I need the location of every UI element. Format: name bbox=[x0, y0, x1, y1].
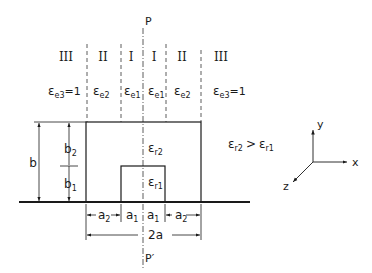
region-label: I bbox=[129, 50, 134, 64]
y-axis-label: y bbox=[317, 118, 324, 131]
permittivity-label: εe2 bbox=[174, 84, 191, 100]
coordinate-axes bbox=[293, 130, 347, 182]
permittivity-label: εe3=1 bbox=[213, 84, 246, 100]
region-label: II bbox=[98, 50, 108, 64]
dielectric-waveguide-diagram: P P′ III II I I II III εe3=1 εe2 εe1 εe1… bbox=[0, 0, 372, 273]
symmetry-label-top: P bbox=[145, 15, 152, 28]
symmetry-label-bottom: P′ bbox=[145, 252, 155, 265]
region-label: III bbox=[214, 50, 228, 64]
outer-dielectric-box bbox=[86, 122, 201, 202]
permittivity-label: εe1 bbox=[148, 84, 165, 100]
z-axis-label: z bbox=[283, 180, 289, 193]
dimension-b1: b1 bbox=[64, 177, 77, 193]
dimension-b2: b2 bbox=[64, 142, 77, 158]
permittivity-label: εe1 bbox=[124, 84, 141, 100]
inner-dielectric-label: εr1 bbox=[148, 175, 163, 191]
width-labels: a2 a1 a1 a2 2a bbox=[98, 208, 187, 242]
permittivity-relation: εr2>εr1 bbox=[228, 137, 274, 153]
region-label: II bbox=[177, 50, 187, 64]
outer-dielectric-label: εr2 bbox=[148, 141, 163, 157]
region-labels: III II I I II III bbox=[59, 50, 228, 64]
dimension-2a: 2a bbox=[148, 228, 163, 242]
region-label: I bbox=[152, 50, 157, 64]
z-axis-arrow bbox=[293, 162, 313, 182]
vertical-dimensions bbox=[34, 122, 86, 201]
effective-permittivity-labels: εe3=1 εe2 εe1 εe1 εe2 εe3=1 bbox=[48, 84, 246, 100]
dimension-a1-right: a1 bbox=[147, 208, 159, 224]
x-axis-label: x bbox=[352, 156, 359, 169]
dimension-a2-right: a2 bbox=[175, 208, 187, 224]
permittivity-label: εe3=1 bbox=[48, 84, 81, 100]
dimension-a2-left: a2 bbox=[98, 208, 110, 224]
dimension-a1-left: a1 bbox=[126, 208, 138, 224]
dimension-b: b bbox=[29, 156, 37, 170]
permittivity-label: εe2 bbox=[93, 84, 110, 100]
region-label: III bbox=[59, 50, 73, 64]
